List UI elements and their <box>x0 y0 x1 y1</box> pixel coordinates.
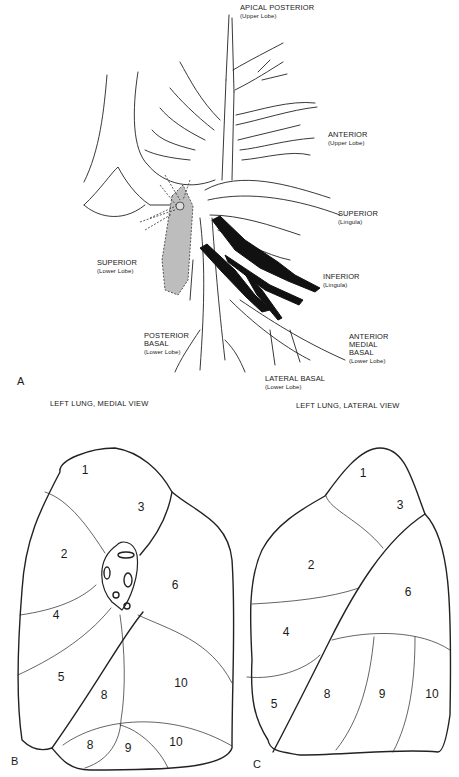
label-superior-lingula: SUPERIOR (Lingula) <box>338 210 378 226</box>
label-inferior-lingula: INFERIOR (Lingula) <box>323 273 360 289</box>
diagram-artwork <box>0 0 459 777</box>
lateral-segment-8: 8 <box>324 687 331 701</box>
panel-letter-a: A <box>17 375 24 387</box>
medial-segment-6: 6 <box>172 578 179 592</box>
superior-lower-lobe-bronchi <box>140 175 193 295</box>
panel-letter-c: C <box>253 758 261 770</box>
medial-segment-3: 3 <box>138 500 145 514</box>
medial-segment-5: 5 <box>58 670 65 684</box>
lateral-view-outline <box>251 448 451 755</box>
label-anterior-upper-lobe: ANTERIOR (Upper Lobe) <box>328 131 368 147</box>
medial-segment-10-lower: 10 <box>169 735 182 749</box>
panel-letter-b: B <box>11 755 18 767</box>
lateral-segment-5: 5 <box>271 697 278 711</box>
label-lateral-basal: LATERAL BASAL (Lower Lobe) <box>265 375 325 391</box>
label-superior-lower-lobe: SUPERIOR (Lower Lobe) <box>97 259 137 275</box>
lateral-segment-10: 10 <box>425 687 438 701</box>
medial-segment-1: 1 <box>82 463 89 477</box>
medial-view-title: LEFT LUNG, MEDIAL VIEW <box>50 399 149 408</box>
lateral-segment-4: 4 <box>283 625 290 639</box>
lateral-segment-6: 6 <box>405 585 412 599</box>
label-anterior-medial-basal: ANTERIOR MEDIAL BASAL (Lower Lobe) <box>349 333 389 365</box>
medial-segment-9: 9 <box>125 741 132 755</box>
medial-segment-8-upper: 8 <box>101 688 108 702</box>
lateral-view-title: LEFT LUNG, LATERAL VIEW <box>296 401 400 410</box>
lateral-segment-3: 3 <box>397 498 404 512</box>
lateral-segment-1: 1 <box>360 466 367 480</box>
medial-segment-8-lower: 8 <box>87 738 94 752</box>
lateral-view-fissures <box>247 496 450 752</box>
bronchial-tree-outline <box>84 15 345 372</box>
label-posterior-basal: POSTERIOR BASAL (Lower Lobe) <box>144 332 189 356</box>
medial-segment-4: 4 <box>53 608 60 622</box>
inferior-lingula-bronchi <box>200 216 320 320</box>
medial-view-fissures <box>18 492 232 768</box>
medial-segment-10-upper: 10 <box>174 676 187 690</box>
lateral-segment-2: 2 <box>308 558 315 572</box>
medial-segment-2: 2 <box>61 547 68 561</box>
label-apical-posterior: APICAL POSTERIOR (Upper Lobe) <box>240 4 314 20</box>
lateral-segment-9: 9 <box>379 687 386 701</box>
